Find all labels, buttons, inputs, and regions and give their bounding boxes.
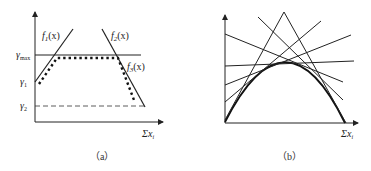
envelope-parabola xyxy=(225,62,345,123)
f2-label: f2(x) xyxy=(111,30,129,43)
x-axis-label: Σxi xyxy=(340,128,353,140)
panel-a: f1(x) f2(x) f3(x) γmax γ1 γ2 Σxi （a） xyxy=(16,12,163,162)
f1-label: f1(x) xyxy=(42,30,60,43)
f3-label: f3(x) xyxy=(127,61,145,74)
x-axis-label: Σxi xyxy=(141,128,154,140)
gamma-1-label: γ1 xyxy=(20,76,27,88)
tangent-line-4 xyxy=(258,17,343,100)
caption-a: （a） xyxy=(90,151,114,162)
gamma-2-label: γ2 xyxy=(20,100,27,112)
panel-b: Σxi （b） xyxy=(225,12,358,162)
figure-canvas: f1(x) f2(x) f3(x) γmax γ1 γ2 Σxi （a） Σxi… xyxy=(0,0,371,171)
f3-dotted-line xyxy=(39,58,134,100)
caption-b: （b） xyxy=(277,151,302,162)
tangent-line-3 xyxy=(225,34,343,82)
gamma-max-label: γmax xyxy=(16,49,30,61)
tangent-line-2 xyxy=(284,12,346,123)
